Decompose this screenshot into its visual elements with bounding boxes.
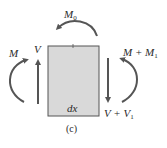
label-m: M (9, 48, 18, 59)
label-v: V (34, 44, 41, 55)
moment-m0-arrow-icon (58, 21, 97, 36)
label-m-plus-m1: M + M1 (123, 47, 158, 60)
figure-caption: (c) (66, 124, 77, 134)
moment-m-plus-m1-arrow-icon (122, 59, 137, 102)
label-dx: dx (67, 103, 77, 114)
moment-m-arrow-icon (10, 60, 26, 102)
diagram-graphics (0, 0, 167, 148)
free-body-diagram: M0 M V M + M1 V + V1 dx (c) (0, 0, 167, 148)
label-m0: M0 (64, 9, 77, 22)
label-v-plus-v1: V + V1 (104, 108, 134, 121)
